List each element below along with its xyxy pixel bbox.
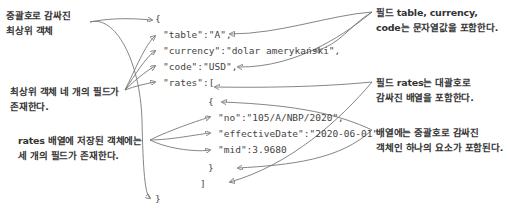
arrow-field-code <box>125 66 155 90</box>
note-rates-fields: rates 배열에 저장된 객체에는 세 개의 필드가 존재한다. <box>18 133 142 163</box>
arrow-rates-no <box>150 117 210 140</box>
json-field-rates: "rates":[ <box>163 77 214 89</box>
arrow-rates-effectivedate <box>150 133 210 140</box>
json-inner-close-brace: } <box>208 162 214 174</box>
json-field-code: "code":"USD", <box>163 61 237 73</box>
note-array-element: 배열에는 중괄호로 감싸진 객체인 하나의 요소가 포함된다. <box>376 125 503 155</box>
json-inner-open-brace: { <box>208 96 214 108</box>
arrow-string-code <box>238 12 372 67</box>
json-open-brace: { <box>155 13 161 25</box>
note-top-object: 중괄호로 감싸진 최상위 객체 <box>6 8 71 38</box>
arrow-rates-mid <box>150 140 210 151</box>
json-field-currency: "currency":"dolar amerykański", <box>163 45 340 57</box>
note-four-fields: 최상위 객체 네 개의 필드가 존재한다. <box>10 84 119 114</box>
json-field-effectivedate: "effectiveDate":"2020-06-01", <box>218 128 384 140</box>
note-rates-array: 필드 rates는 대괄호로 감싸진 배열을 포함한다. <box>376 75 474 105</box>
note-string-fields: 필드 table, currency, code는 문자열값을 포함한다. <box>376 5 498 35</box>
json-field-table: "table":"A", <box>163 29 232 41</box>
json-field-no: "no":"105/A/NBP/2020", <box>218 112 344 124</box>
json-array-close: ] <box>200 178 206 190</box>
arrow-string-table <box>230 12 372 34</box>
arrow-rates-bracket <box>215 82 372 87</box>
json-close-brace: } <box>155 193 161 205</box>
arrow-field-table <box>125 36 155 90</box>
json-field-mid: "mid":3.9680 <box>218 144 287 156</box>
json-structure-diagram: 중괄호로 감싸진 최상위 객체 최상위 객체 네 개의 필드가 존재한다. ra… <box>0 0 507 211</box>
